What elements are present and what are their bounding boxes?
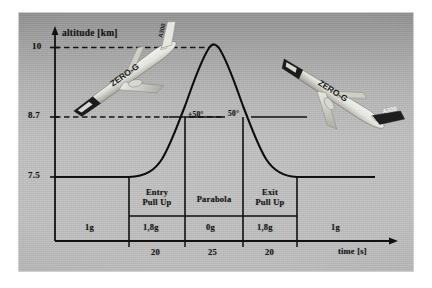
g-label-segment-3: 0g <box>206 222 215 232</box>
x-segment-duration-2: 25 <box>208 247 217 257</box>
g-label-segment-2: 1,8g <box>143 222 159 232</box>
x-axis-title: time [s] <box>338 246 367 256</box>
x-segment-duration-3: 20 <box>265 247 274 257</box>
parabolic-flight-plot: ZERO-G A300 ZERO-G A300 <box>19 13 413 271</box>
g-label-segment-4: 1,8g <box>257 222 273 232</box>
phase-exit-line1: Exit <box>262 187 278 197</box>
scanned-figure-frame: ZERO-G A300 ZERO-G A300 altit <box>19 13 413 271</box>
phase-label-parabola: Parabola <box>185 194 243 204</box>
angle-label-ascent: +50° <box>188 110 204 119</box>
phase-exit-line2: Pull Up <box>255 197 284 207</box>
y-tick-label-10: 10 <box>32 41 41 51</box>
y-tick-label-7-5: 7.5 <box>28 170 40 180</box>
phase-label-exit-pull-up: Exit Pull Up <box>243 187 297 207</box>
phase-entry-line1: Entry <box>146 187 168 197</box>
phase-parabola-line1: Parabola <box>197 194 232 204</box>
phase-entry-line2: Pull Up <box>142 197 171 207</box>
aircraft-descending: ZERO-G A300 <box>267 36 408 160</box>
g-label-segment-5: 1g <box>331 222 340 232</box>
x-segment-duration-1: 20 <box>151 247 160 257</box>
phase-label-entry-pull-up: Entry Pull Up <box>129 187 185 207</box>
g-label-segment-1: 1g <box>85 222 94 232</box>
y-tick-label-8-7: 8.7 <box>28 110 40 120</box>
y-axis-title: altitude [km] <box>62 28 118 38</box>
angle-label-descent: 50° <box>228 109 239 118</box>
